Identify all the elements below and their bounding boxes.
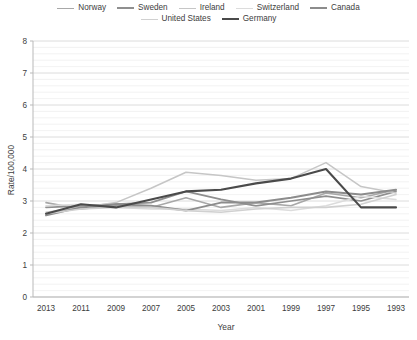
svg-text:1993: 1993 xyxy=(387,304,406,313)
svg-text:2011: 2011 xyxy=(72,304,90,313)
svg-text:8: 8 xyxy=(22,37,27,46)
plot-area: 876543210 201320112009200720052003200119… xyxy=(0,0,417,340)
svg-text:2009: 2009 xyxy=(107,304,126,313)
svg-text:4: 4 xyxy=(22,165,27,174)
svg-text:5: 5 xyxy=(22,133,27,142)
svg-text:1995: 1995 xyxy=(352,304,371,313)
svg-text:0: 0 xyxy=(22,293,27,302)
x-axis-title: Year xyxy=(218,322,235,332)
x-axis-tick-labels: 2013201120092007200520032001199919971995… xyxy=(37,304,406,313)
svg-text:2003: 2003 xyxy=(212,304,231,313)
svg-text:6: 6 xyxy=(22,101,27,110)
svg-text:1999: 1999 xyxy=(282,304,301,313)
svg-text:2005: 2005 xyxy=(177,304,196,313)
y-axis-tick-labels: 876543210 xyxy=(22,37,33,302)
svg-text:7: 7 xyxy=(22,69,27,78)
svg-text:2001: 2001 xyxy=(247,304,266,313)
svg-text:3: 3 xyxy=(22,197,27,206)
svg-text:2007: 2007 xyxy=(142,304,161,313)
line-chart-svg: 876543210 201320112009200720052003200119… xyxy=(0,0,417,340)
svg-text:2013: 2013 xyxy=(37,304,56,313)
y-axis-title: Rate/100,000 xyxy=(6,145,16,196)
svg-text:1: 1 xyxy=(22,261,27,270)
chart-screenshot: Norway Sweden Ireland Switzerland Canada xyxy=(0,0,417,340)
svg-text:1997: 1997 xyxy=(317,304,336,313)
svg-text:2: 2 xyxy=(22,229,27,238)
